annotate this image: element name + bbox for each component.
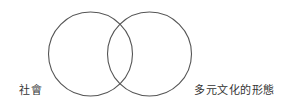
circle-multicultural-forms	[108, 12, 192, 96]
venn-diagram: 社會 多元文化的形態	[0, 0, 288, 106]
label-society: 社會	[19, 85, 42, 97]
label-multicultural-forms: 多元文化的形態	[194, 85, 275, 97]
